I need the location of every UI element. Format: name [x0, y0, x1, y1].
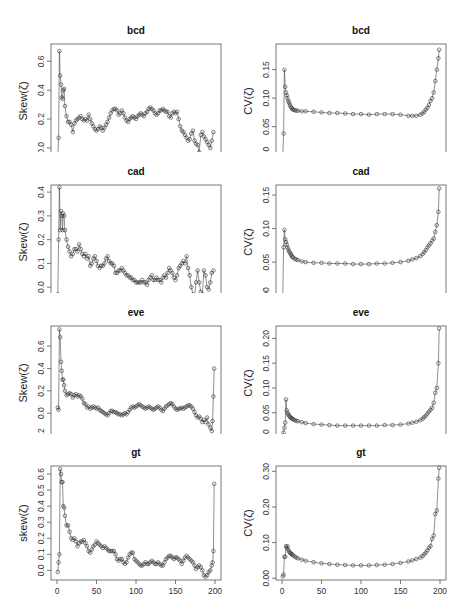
plot-frame — [276, 466, 446, 580]
svg-text:0.4: 0.4 — [36, 186, 46, 198]
chart-title: gt — [131, 447, 141, 458]
svg-text:0.2: 0.2 — [36, 385, 46, 397]
data-series — [281, 48, 441, 152]
svg-text:0: 0 — [55, 586, 60, 596]
y-axis: 0.000.050.100.15 — [261, 187, 276, 293]
svg-text:0.4: 0.4 — [36, 362, 46, 374]
svg-text:0.4: 0.4 — [36, 84, 46, 96]
svg-text:150: 150 — [168, 586, 182, 596]
svg-text:200: 200 — [208, 586, 222, 596]
panel-gt-cv: gt0501001502000.000.100.200.30CV(ζ) — [225, 422, 451, 600]
panel-eve-cv: eve0501001502000.000.050.100.150.20CV(ζ) — [225, 282, 451, 434]
chart-eve-skew: eve050100150200-0.20.00.20.40.6Skew(ζ) — [0, 282, 226, 434]
svg-text:0.4: 0.4 — [36, 500, 46, 512]
svg-text:0.6: 0.6 — [36, 340, 46, 352]
svg-text:0.05: 0.05 — [261, 118, 271, 135]
svg-text:0.05: 0.05 — [261, 254, 271, 271]
svg-text:0.20: 0.20 — [261, 330, 271, 347]
y-axis-label: skew(ζ) — [17, 504, 29, 541]
plot-frame — [51, 44, 221, 152]
plot-frame — [276, 185, 446, 293]
svg-text:0.15: 0.15 — [261, 61, 271, 78]
x-axis: 050100150200 — [55, 580, 223, 596]
y-axis: -0.20.00.20.40.6 — [36, 340, 51, 434]
y-axis-label: Skew(ζ) — [17, 81, 29, 120]
panel-bcd-skew: bcd0501001502000.00.20.40.6Skew(ζ) — [0, 0, 226, 152]
svg-text:0.3: 0.3 — [36, 210, 46, 222]
chart-title: eve — [128, 307, 145, 318]
y-axis: 0.00.10.20.30.4 — [36, 186, 51, 293]
data-series — [56, 49, 215, 152]
data-series — [56, 467, 216, 578]
y-axis: 0.000.050.100.15 — [261, 61, 276, 152]
svg-text:0.3: 0.3 — [36, 516, 46, 528]
y-axis-label: CV(ζ) — [242, 509, 254, 536]
y-axis: 0.00.10.20.30.40.50.6 — [36, 468, 51, 576]
svg-text:0.20: 0.20 — [261, 498, 271, 515]
svg-text:0.5: 0.5 — [36, 484, 46, 496]
panel-cad-cv: cad0501001502000.000.050.100.15CV(ζ) — [225, 141, 451, 293]
chart-title: cad — [127, 166, 144, 177]
y-axis-label: Skew(ζ) — [17, 222, 29, 261]
chart-gt-skew: gt0501001502000.00.10.20.30.40.50.6skew(… — [0, 422, 226, 600]
svg-text:200: 200 — [433, 586, 447, 596]
y-axis: 0.000.050.100.150.20 — [261, 330, 276, 434]
chart-bcd-cv: bcd0501001502000.000.050.100.15CV(ζ) — [225, 0, 451, 152]
svg-text:0.6: 0.6 — [36, 468, 46, 480]
y-axis: 0.000.100.200.30 — [261, 463, 276, 587]
svg-text:0.0: 0.0 — [36, 564, 46, 576]
chart-title: bcd — [352, 25, 370, 36]
panel-eve-skew: eve050100150200-0.20.00.20.40.6Skew(ζ) — [0, 282, 226, 434]
chart-title: bcd — [127, 25, 145, 36]
plot-frame — [51, 185, 221, 293]
svg-text:100: 100 — [129, 586, 143, 596]
plot-frame — [276, 44, 446, 152]
svg-text:0.1: 0.1 — [36, 548, 46, 560]
chart-bcd-skew: bcd0501001502000.00.20.40.6Skew(ζ) — [0, 0, 226, 152]
svg-text:0.2: 0.2 — [36, 532, 46, 544]
chart-title: cad — [352, 166, 369, 177]
y-axis-label: CV(ζ) — [242, 369, 254, 396]
svg-text:150: 150 — [393, 586, 407, 596]
chart-gt-cv: gt0501001502000.000.100.200.30CV(ζ) — [225, 422, 451, 600]
svg-text:0: 0 — [280, 586, 285, 596]
panel-cad-skew: cad0501001502000.00.10.20.30.4Skew(ζ) — [0, 141, 226, 293]
svg-text:50: 50 — [317, 586, 327, 596]
svg-text:0.2: 0.2 — [36, 113, 46, 125]
chart-title: eve — [353, 307, 370, 318]
svg-text:0.1: 0.1 — [36, 257, 46, 269]
x-axis: 050100150200 — [280, 580, 448, 596]
data-series — [281, 466, 441, 578]
svg-text:0.2: 0.2 — [36, 233, 46, 245]
svg-text:0.10: 0.10 — [261, 534, 271, 551]
chart-cad-skew: cad0501001502000.00.10.20.30.4Skew(ζ) — [0, 141, 226, 293]
data-series — [281, 187, 441, 293]
svg-text:0.00: 0.00 — [261, 570, 271, 587]
y-axis: 0.00.20.40.6 — [36, 55, 51, 152]
svg-text:0.6: 0.6 — [36, 55, 46, 67]
data-series — [56, 328, 216, 433]
chart-cad-cv: cad0501001502000.000.050.100.15CV(ζ) — [225, 141, 451, 293]
data-series — [56, 186, 215, 293]
svg-text:0.05: 0.05 — [261, 404, 271, 421]
chart-title: gt — [356, 447, 366, 458]
svg-text:0.0: 0.0 — [36, 407, 46, 419]
svg-text:0.10: 0.10 — [261, 220, 271, 237]
svg-text:0.15: 0.15 — [261, 355, 271, 372]
y-axis-label: CV(ζ) — [242, 87, 254, 114]
figure-grid: bcd0501001502000.00.20.40.6Skew(ζ) bcd05… — [0, 0, 451, 610]
svg-text:0.30: 0.30 — [261, 463, 271, 480]
svg-text:50: 50 — [92, 586, 102, 596]
svg-text:0.10: 0.10 — [261, 90, 271, 107]
y-axis-label: Skew(ζ) — [17, 363, 29, 402]
plot-frame — [51, 326, 221, 434]
panel-gt-skew: gt0501001502000.00.10.20.30.40.50.6skew(… — [0, 422, 226, 600]
svg-text:0.15: 0.15 — [261, 187, 271, 204]
svg-text:100: 100 — [354, 586, 368, 596]
y-axis-label: CV(ζ) — [242, 228, 254, 255]
plot-frame — [276, 326, 446, 434]
chart-eve-cv: eve0501001502000.000.050.100.150.20CV(ζ) — [225, 282, 451, 434]
data-series — [281, 327, 441, 434]
svg-text:0.10: 0.10 — [261, 379, 271, 396]
panel-bcd-cv: bcd0501001502000.000.050.100.15CV(ζ) — [225, 0, 451, 152]
